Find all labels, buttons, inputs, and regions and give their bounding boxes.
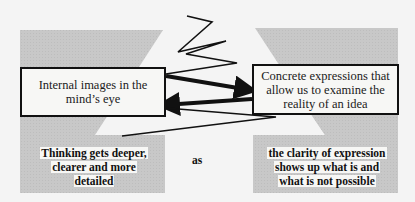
thinking-caption-line-3: detailed: [74, 175, 115, 187]
thinking-caption-line-2: clearer and more: [51, 161, 137, 173]
arrow-right-to-left: [164, 99, 252, 105]
clarity-caption: the clarity of expression shows up what …: [258, 146, 396, 188]
thinking-caption-line-1: Thinking gets deeper,: [40, 147, 147, 159]
thinking-caption: Thinking gets deeper, clearer and more d…: [24, 146, 164, 188]
clarity-caption-line-2: shows up what is and: [274, 161, 380, 173]
concrete-expressions-box: Concrete expressions that allow us to ex…: [252, 64, 399, 115]
internal-images-box: Internal images in the mind’s eye: [20, 67, 166, 117]
arrow-left-to-right: [166, 76, 250, 90]
zigzag-line: [166, 16, 237, 74]
thinking-expression-diagram: Internal images in the mind’s eye Concre…: [0, 0, 415, 202]
clarity-caption-line-1: the clarity of expression: [267, 147, 386, 159]
internal-images-text: Internal images in the mind’s eye: [28, 78, 158, 106]
connector-word: as: [192, 154, 202, 166]
clarity-caption-line-3: what is not possible: [278, 175, 376, 187]
concrete-expressions-text: Concrete expressions that allow us to ex…: [260, 69, 391, 111]
